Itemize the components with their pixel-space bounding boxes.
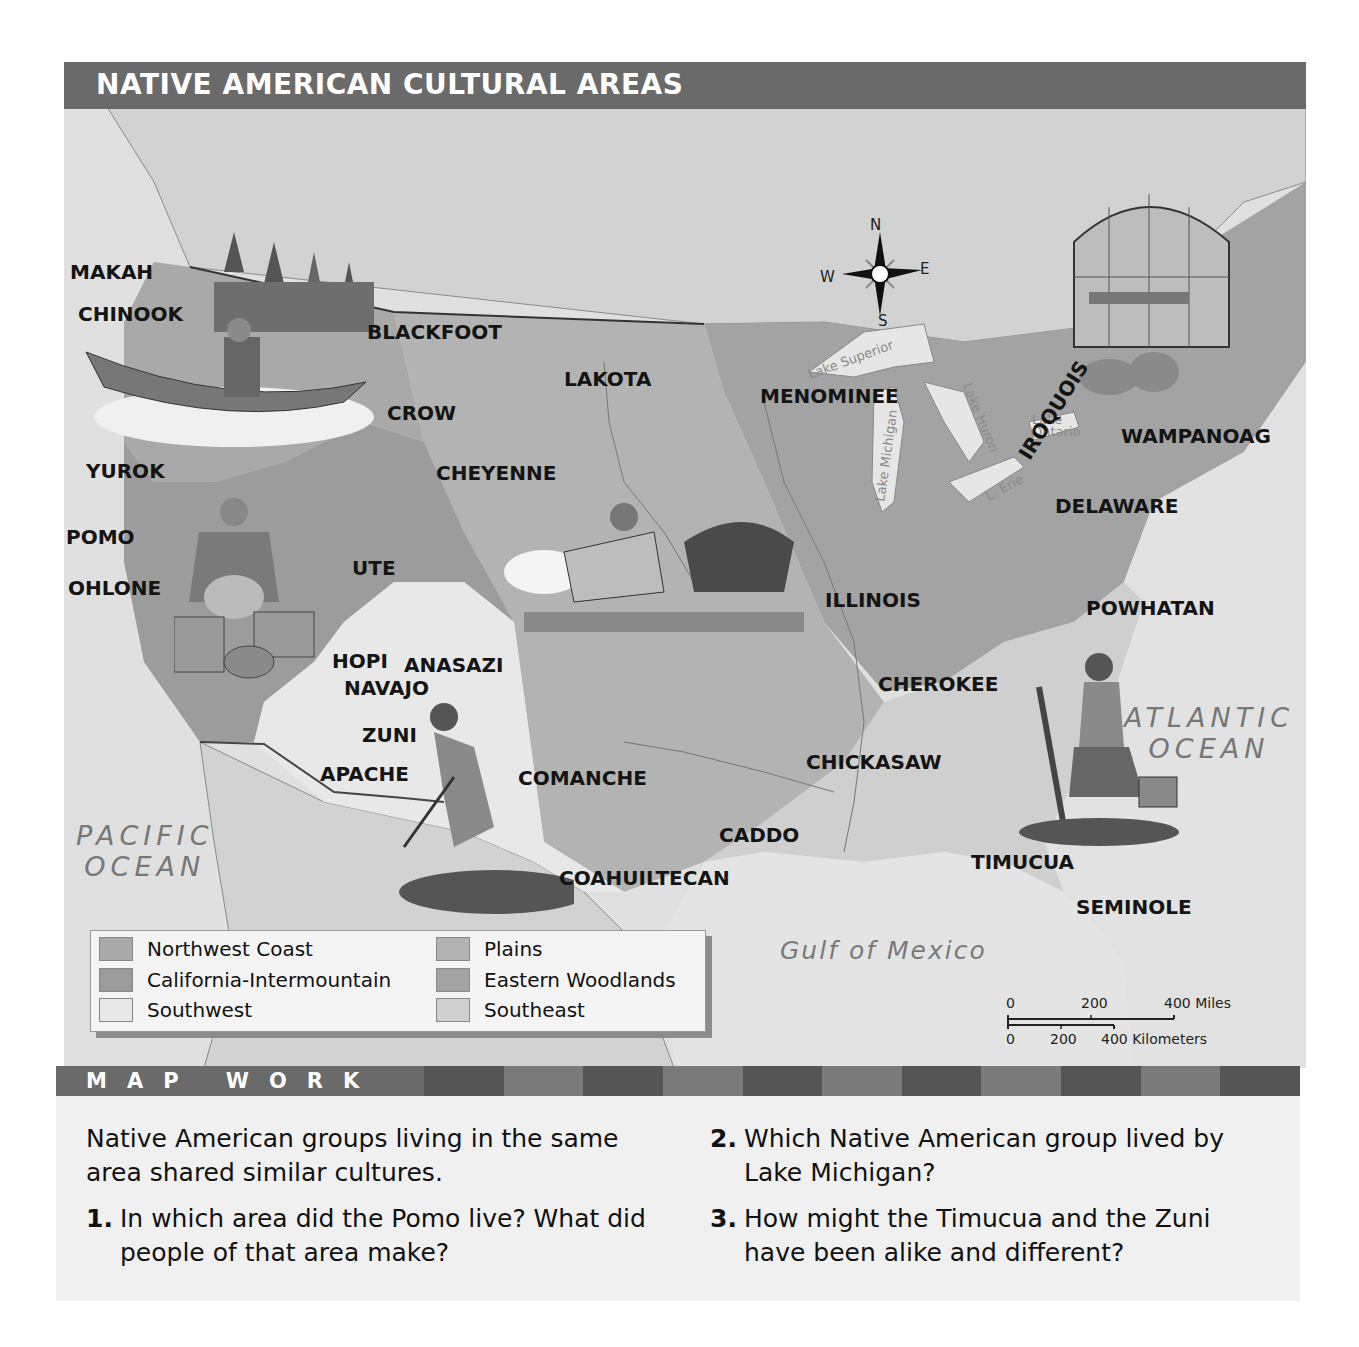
- legend-swatch: [99, 998, 133, 1022]
- group-label-crow: CROW: [387, 401, 456, 425]
- group-label-makah: MAKAH: [70, 260, 153, 284]
- legend-item-northwest-coast: Northwest Coast: [99, 937, 313, 961]
- compass-rose: N S E W: [816, 214, 936, 334]
- group-label-wampanoag: WAMPANOAG: [1121, 424, 1271, 448]
- compass-west: W: [820, 268, 835, 286]
- group-label-delaware: DELAWARE: [1055, 494, 1178, 518]
- compass-east: E: [920, 260, 929, 278]
- legend-item-plains: Plains: [436, 937, 543, 961]
- stripe: [663, 1066, 743, 1096]
- stripe: [1141, 1066, 1221, 1096]
- map-title: NATIVE AMERICAN CULTURAL AREAS: [96, 68, 683, 101]
- canoe-illustration: [84, 212, 384, 452]
- question-3: 3. How might the Timucua and the Zuni ha…: [710, 1202, 1270, 1270]
- stripe: [822, 1066, 902, 1096]
- group-label-yurok: YUROK: [86, 459, 165, 483]
- group-label-navajo: NAVAJO: [344, 676, 429, 700]
- map-work-title: MAP WORK: [56, 1066, 424, 1096]
- group-label-coahuiltecan: COAHUILTECAN: [559, 866, 730, 890]
- questions-right-column: 2. Which Native American group lived by …: [710, 1122, 1270, 1270]
- scale-lines: [1006, 1015, 1176, 1031]
- basket-weaver-illustration: [174, 492, 324, 692]
- group-label-illinois: ILLINOIS: [825, 588, 921, 612]
- group-label-caddo: CADDO: [719, 823, 799, 847]
- question-1: 1. In which area did the Pomo live? What…: [86, 1202, 666, 1270]
- group-label-anasazi: ANASAZI: [404, 653, 504, 677]
- questions-left-column: Native American groups living in the sam…: [86, 1122, 666, 1270]
- stripe: [583, 1066, 663, 1096]
- group-label-chinook: CHINOOK: [78, 302, 183, 326]
- legend-swatch: [436, 968, 470, 992]
- map-legend: Northwest Coast California-Intermountain…: [90, 930, 706, 1032]
- group-label-comanche: COMANCHE: [518, 766, 647, 790]
- group-label-ohlone: OHLONE: [68, 576, 161, 600]
- legend-item-southwest: Southwest: [99, 998, 252, 1022]
- group-label-ute: UTE: [352, 556, 396, 580]
- question-2: 2. Which Native American group lived by …: [710, 1122, 1270, 1190]
- stripe: [981, 1066, 1061, 1096]
- legend-swatch: [436, 998, 470, 1022]
- atlantic-ocean-label: ATLANTIC OCEAN: [1124, 702, 1294, 764]
- map-title-bar: NATIVE AMERICAN CULTURAL AREAS: [64, 62, 1306, 109]
- legend-swatch: [99, 968, 133, 992]
- group-label-blackfoot: BLACKFOOT: [367, 320, 502, 344]
- group-label-hopi: HOPI: [332, 649, 388, 673]
- gulf-of-mexico-label: Gulf of Mexico: [780, 936, 987, 965]
- stripe: [504, 1066, 584, 1096]
- legend-swatch: [99, 937, 133, 961]
- group-label-menominee: MENOMINEE: [760, 384, 899, 408]
- stripe: [1220, 1066, 1300, 1096]
- group-label-apache: APACHE: [320, 762, 409, 786]
- group-label-cherokee: CHEROKEE: [878, 672, 998, 696]
- pacific-ocean-label: PACIFIC OCEAN: [76, 820, 214, 882]
- group-label-timucua: TIMUCUA: [971, 850, 1074, 874]
- group-label-powhatan: POWHATAN: [1086, 596, 1215, 620]
- map-work-intro: Native American groups living in the sam…: [86, 1122, 666, 1190]
- group-label-seminole: SEMINOLE: [1076, 895, 1192, 919]
- group-label-pomo: POMO: [66, 525, 135, 549]
- scale-bar: 0 200 400 Miles 0 200 400 Kilometers: [1006, 995, 1246, 1055]
- stripe: [902, 1066, 982, 1096]
- group-label-zuni: ZUNI: [362, 723, 417, 747]
- legend-swatch: [436, 937, 470, 961]
- buffalo-hunt-illustration: [504, 462, 814, 642]
- compass-south: S: [878, 312, 888, 330]
- group-label-cheyenne: CHEYENNE: [436, 461, 556, 485]
- group-label-lakota: LAKOTA: [564, 367, 651, 391]
- group-label-chickasaw: CHICKASAW: [806, 750, 942, 774]
- stripe: [743, 1066, 823, 1096]
- map-work-bar: MAP WORK: [56, 1066, 1300, 1096]
- stripe: [1061, 1066, 1141, 1096]
- stripe: [424, 1066, 504, 1096]
- legend-item-california-intermountain: California-Intermountain: [99, 968, 391, 992]
- map-work-questions: Native American groups living in the sam…: [56, 1096, 1300, 1301]
- map: N S E W: [64, 62, 1306, 1068]
- legend-item-eastern-woodlands: Eastern Woodlands: [436, 968, 676, 992]
- legend-item-southeast: Southeast: [436, 998, 585, 1022]
- compass-north: N: [870, 216, 881, 234]
